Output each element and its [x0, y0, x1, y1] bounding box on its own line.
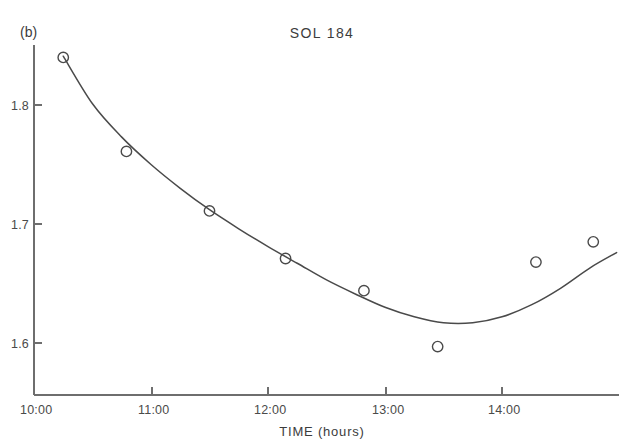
fitted-curve [63, 56, 616, 323]
x-axis-ticks: 10:00 11:00 12:00 13:00 14:00 [20, 387, 520, 417]
y-axis-ticks: 1.8 1.7 1.6 [11, 99, 42, 351]
chart-plot-area: (b) SOL 184 1.8 1.7 1.6 10:00 11:00 12:0… [0, 0, 620, 441]
chart-figure: (b) SOL 184 1.8 1.7 1.6 10:00 11:00 12:0… [0, 0, 620, 441]
data-point [432, 341, 442, 351]
data-point [588, 237, 598, 247]
data-point [121, 146, 131, 156]
x-tick-label: 14:00 [488, 403, 520, 417]
x-axis-title: TIME (hours) [279, 424, 364, 439]
chart-title: SOL 184 [290, 25, 355, 41]
data-point [359, 285, 369, 295]
data-point-group [58, 52, 598, 352]
x-tick-label: 13:00 [372, 403, 404, 417]
y-tick-label: 1.6 [11, 337, 29, 351]
y-tick-label: 1.8 [11, 99, 29, 113]
panel-label: (b) [20, 24, 37, 40]
data-point [204, 206, 214, 216]
data-point [531, 257, 541, 267]
x-tick-label: 12:00 [254, 403, 286, 417]
x-tick-label: 11:00 [138, 403, 169, 417]
y-tick-label: 1.7 [11, 218, 29, 232]
x-tick-label: 10:00 [20, 403, 52, 417]
